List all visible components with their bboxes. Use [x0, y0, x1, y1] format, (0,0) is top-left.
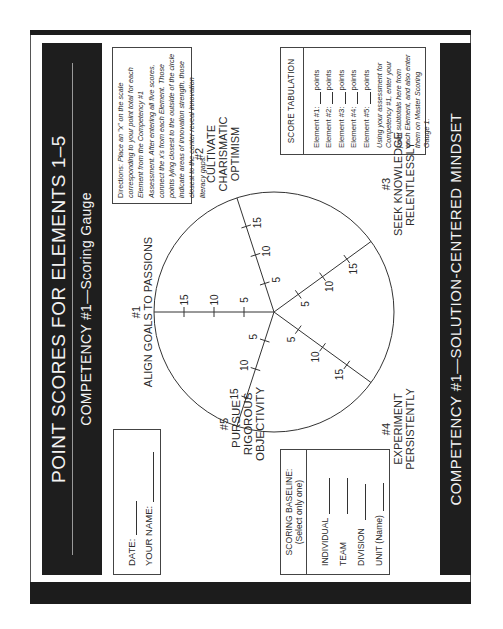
element-name-line: CULTIVATE — [205, 109, 217, 199]
gauge-tick-label: 10 — [261, 245, 272, 257]
element-number: #1 — [130, 217, 142, 407]
element-1-label: #1 ALIGN GOALS TO PASSIONS — [130, 217, 154, 407]
gauge-tick-label: 10 — [324, 280, 335, 292]
element-number: #5 — [218, 379, 230, 469]
gauge-tick-label: 15 — [334, 369, 345, 381]
element-name-line: PERSISTENTLY — [404, 379, 416, 479]
element-3-label: #3 SEEK KNOWLEDGE RELENTLESSLY — [380, 124, 416, 244]
element-number: #2 — [193, 109, 205, 199]
scoring-gauge-page: POINT SCORES FOR ELEMENTS 1–5 COMPETENCY… — [0, 0, 503, 629]
element-2-label: #2 CULTIVATE CHARISMATIC OPTIMISM — [193, 109, 241, 199]
gauge-tick-labels: 5101551015510155101551015 — [179, 217, 360, 400]
element-name-line: CHARISMATIC — [217, 109, 229, 199]
element-4-label: #4 EXPERIMENT PERSISTENTLY — [380, 379, 416, 479]
gauge-tick-label: 10 — [310, 351, 321, 363]
gauge-tick-label: 5 — [300, 301, 311, 307]
element-name-line: RIGOROUS — [242, 379, 254, 469]
gauge-tick-label: 15 — [252, 217, 263, 229]
gauge-tick-label: 10 — [209, 294, 220, 306]
element-name-line: EXPERIMENT — [392, 379, 404, 479]
element-5-label: #5 PURSUE RIGOROUS OBJECTIVITY — [218, 379, 266, 469]
gauge-tick-label: 5 — [239, 297, 250, 303]
element-name-line: PURSUE — [230, 379, 242, 469]
element-name-line: SEEK KNOWLEDGE — [392, 124, 404, 244]
element-name-line: RELENTLESSLY — [404, 124, 416, 244]
element-name-line: OPTIMISM — [229, 109, 241, 199]
gauge-tick-label: 15 — [348, 263, 359, 275]
element-name-line: OBJECTIVITY — [254, 379, 266, 469]
element-number: #3 — [380, 124, 392, 244]
gauge-tick-label: 10 — [239, 359, 250, 371]
footer-band: COMPETENCY #1—SOLUTION-CENTERED MINDSET — [440, 43, 471, 575]
gauge-tick-label: 15 — [179, 294, 190, 306]
element-number: #4 — [380, 379, 392, 479]
gauge-tick-label: 5 — [248, 334, 259, 340]
gauge-tick-label: 5 — [271, 277, 282, 283]
scoring-gauge: 5101551015510155101551015 — [0, 0, 503, 629]
element-name: ALIGN GOALS TO PASSIONS — [142, 237, 154, 387]
gauge-tick-label: 5 — [286, 336, 297, 342]
